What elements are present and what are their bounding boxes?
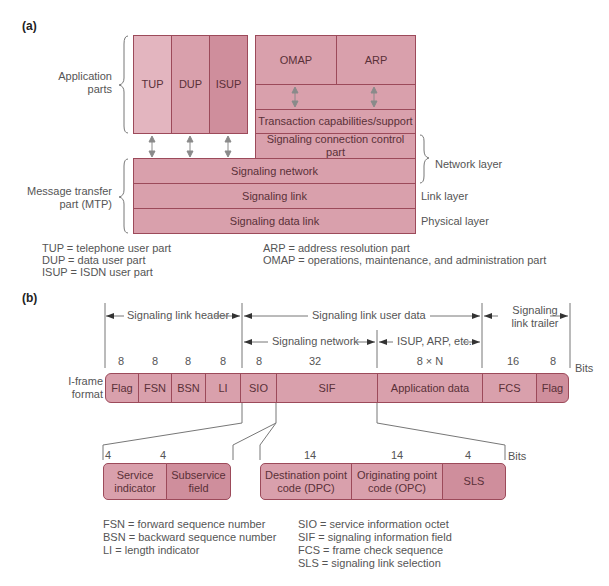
legend-sif: SIF = signaling information field	[298, 531, 452, 544]
field-fcs: FCS	[482, 373, 537, 403]
legend-fsn: FSN = forward sequence number	[103, 518, 265, 531]
application-parts-label: Application parts	[40, 70, 112, 96]
field-bsn: BSN	[171, 373, 206, 403]
field-li: LI	[205, 373, 241, 403]
field-application-data: Application data	[377, 373, 483, 403]
bits-subservice: 4	[148, 449, 178, 461]
link-layer-label: Link layer	[421, 190, 468, 203]
span-trailer-label: Signaling link trailer	[500, 304, 570, 330]
bits-label: Bits	[575, 362, 593, 375]
physical-layer-label: Physical layer	[421, 215, 489, 228]
frame-format-label: I-frame format	[55, 375, 103, 401]
span-network-label: Signaling network	[270, 335, 361, 348]
field-flag-end: Flag	[536, 373, 569, 403]
field-sio: SIO	[240, 373, 277, 403]
field-sif: SIF	[276, 373, 378, 403]
legend-bsn: BSN = backward sequence number	[103, 531, 276, 544]
isup-box: ISUP	[209, 35, 248, 134]
bits-fcs: 16	[498, 355, 528, 367]
dup-box: DUP	[171, 35, 210, 134]
bits-service-indicator: 4	[93, 449, 123, 461]
bits-flag-end: 8	[538, 355, 568, 367]
span-user-data-label: Signaling link user data	[310, 309, 428, 322]
bits-sls: 4	[453, 449, 483, 461]
legend-fcs: FCS = frame check sequence	[298, 544, 443, 557]
bits-dpc: 14	[295, 449, 325, 461]
legend-sls: SLS = signaling link selection	[298, 557, 441, 570]
bits-sio: 8	[244, 355, 274, 367]
part-b-label: (b)	[22, 292, 37, 305]
signaling-network-box: Signaling network	[133, 158, 416, 184]
sls-box: SLS	[442, 463, 506, 500]
bits-li: 8	[208, 355, 238, 367]
span-header-label: Signaling link header	[125, 309, 231, 322]
signaling-link-box: Signaling link	[133, 183, 416, 209]
part-a-label: (a)	[22, 20, 37, 33]
omap-box: OMAP	[255, 35, 337, 85]
service-indicator-box: Service indicator	[103, 463, 167, 500]
span-isup-label: ISUP, ARP, etc.	[395, 335, 474, 348]
arrow-tup	[149, 136, 155, 157]
legend-li: LI = length indicator	[103, 544, 199, 557]
bits-label-sif: Bits	[508, 450, 526, 463]
tcap-box: Transaction capabilities/support	[255, 109, 416, 134]
bits-fsn: 8	[140, 355, 170, 367]
field-fsn: FSN	[138, 373, 172, 403]
bits-sif: 32	[300, 355, 330, 367]
sccp-box: Signaling connection control part	[255, 133, 416, 159]
mtp-label: Message transfer part (MTP)	[10, 185, 112, 211]
arp-box: ARP	[336, 35, 416, 85]
field-flag: Flag	[105, 373, 139, 403]
bits-flag: 8	[106, 355, 136, 367]
subservice-field-box: Subservice field	[166, 463, 231, 500]
tcap-arrow-band	[255, 84, 416, 110]
tup-box: TUP	[133, 35, 172, 134]
bits-opc: 14	[382, 449, 412, 461]
signaling-data-link-box: Signaling data link	[133, 208, 416, 234]
legend-isup: ISUP = ISDN user part	[42, 266, 153, 279]
dpc-box: Destination point code (DPC)	[260, 463, 352, 500]
network-layer-label: Network layer	[435, 158, 502, 171]
legend-sio: SIO = service information octet	[298, 518, 449, 531]
legend-omap: OMAP = operations, maintenance, and admi…	[263, 254, 546, 267]
bits-bsn: 8	[173, 355, 203, 367]
opc-box: Originating point code (OPC)	[351, 463, 443, 500]
bits-app-data: 8 × N	[405, 355, 455, 367]
